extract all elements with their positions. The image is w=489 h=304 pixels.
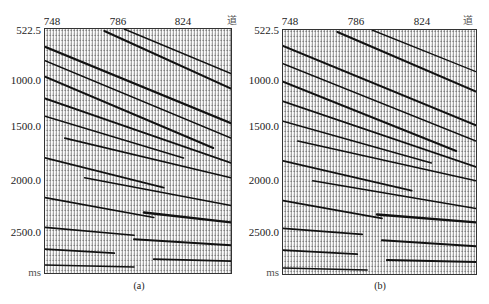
y-tick-1000: 1000.0	[1, 74, 41, 86]
y-tick-522-5: 522.5	[239, 24, 279, 36]
x-tick-824: 824	[407, 15, 437, 27]
seismic-section-plot	[282, 29, 477, 275]
x-tick-786: 786	[341, 15, 371, 27]
y-tick-1000: 1000.0	[239, 74, 279, 86]
y-tick-2000: 2000.0	[1, 174, 41, 186]
seismic-section-plot	[44, 28, 232, 274]
x-tick-824: 824	[168, 15, 198, 27]
y-tick-522-5: 522.5	[1, 24, 41, 36]
y-tick-2000: 2000.0	[239, 174, 279, 186]
reflector-lines	[45, 29, 231, 273]
panel-caption-a: (a)	[124, 280, 154, 291]
y-tick-2500: 2500.0	[239, 226, 279, 238]
y-unit-label: ms	[1, 266, 41, 278]
y-tick-1500: 1500.0	[239, 120, 279, 132]
y-tick-2500: 2500.0	[1, 226, 41, 238]
reflector-lines	[283, 30, 476, 274]
seismic-panel-a: 748 786 824 道 522.5 1000.0 1500.0 2000.0…	[0, 0, 245, 304]
x-unit-label: 道	[453, 15, 483, 27]
y-unit-label: ms	[239, 266, 279, 278]
x-tick-748: 748	[275, 15, 305, 27]
y-tick-1500: 1500.0	[1, 120, 41, 132]
x-tick-748: 748	[37, 15, 67, 27]
panel-caption-b: (b)	[365, 280, 395, 291]
x-tick-786: 786	[103, 15, 133, 27]
seismic-panel-b: 748 786 824 道 522.5 1000.0 1500.0 2000.0…	[245, 0, 489, 304]
